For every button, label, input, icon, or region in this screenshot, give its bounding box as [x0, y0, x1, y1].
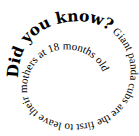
spiral-graphic: Did you know? Giant panda cubs are the f… — [0, 0, 139, 136]
spiral-text: Did you know? Giant panda cubs are the f… — [3, 6, 139, 134]
